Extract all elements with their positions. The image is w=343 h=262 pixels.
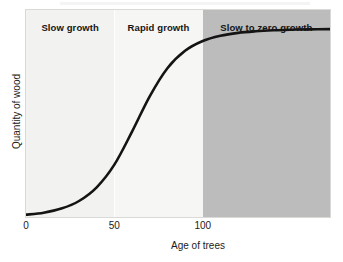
x-tick-label-50: 50 [103,220,125,231]
growth-curve [26,10,330,217]
region-label-slow-to-zero-growth: Slow to zero growth [203,22,330,33]
x-axis-title: Age of trees [138,240,258,251]
plot-area [26,10,330,217]
region-label-rapid-growth: Rapid growth [114,22,202,33]
y-axis-title: Quantity of wood [11,52,22,172]
scan-artifact [60,2,310,5]
chart-figure: Slow growth Rapid growth Slow to zero gr… [0,0,343,262]
x-tick-label-100: 100 [190,220,216,231]
region-label-slow-growth: Slow growth [26,22,114,33]
x-tick-label-0: 0 [15,220,37,231]
